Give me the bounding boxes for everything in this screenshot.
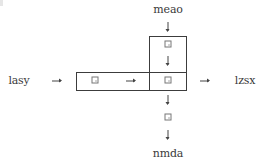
arrow-down-icon xyxy=(168,130,169,139)
arrow-down-icon xyxy=(168,56,169,65)
arrow-down-icon xyxy=(168,95,169,104)
arrow-right-icon xyxy=(126,81,135,82)
node-center-square-icon xyxy=(165,77,172,84)
arrow-right-icon xyxy=(52,81,61,82)
label-top: meao xyxy=(153,4,182,16)
arrow-right-icon xyxy=(200,81,209,82)
node-bottom-square-icon xyxy=(165,114,172,121)
node-left-square-icon xyxy=(92,77,99,84)
scan-artifact xyxy=(0,0,3,6)
label-bottom: nmda xyxy=(153,148,183,160)
label-right: lzsx xyxy=(235,75,255,87)
label-left: lasy xyxy=(8,75,29,87)
node-top-square-icon xyxy=(165,41,172,48)
arrow-down-icon xyxy=(168,22,169,31)
